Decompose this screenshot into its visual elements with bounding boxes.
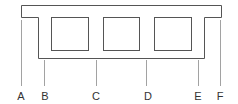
label-e: E — [194, 90, 201, 102]
label-d: D — [144, 90, 152, 102]
label-f: F — [217, 90, 224, 102]
slab-diagram: A B C D E F — [0, 0, 238, 104]
void-1 — [52, 18, 89, 51]
label-a: A — [17, 90, 25, 102]
void-2 — [104, 18, 140, 51]
label-b: B — [41, 90, 48, 102]
void-3 — [155, 18, 192, 51]
label-c: C — [92, 90, 100, 102]
